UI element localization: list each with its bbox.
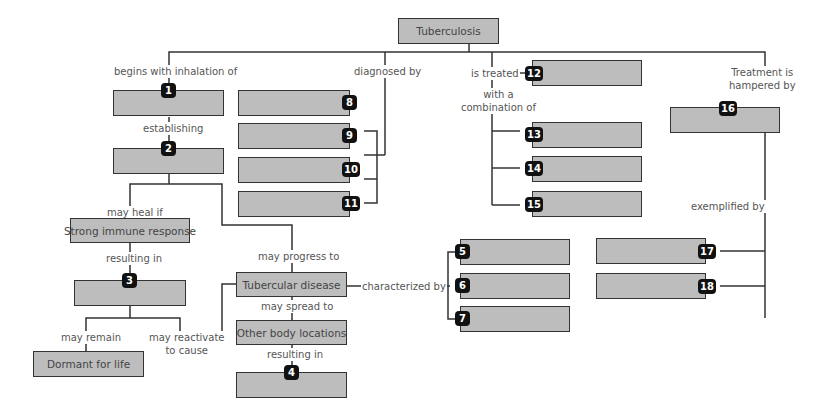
label-with-combination: with a combination of bbox=[460, 88, 537, 114]
answer-box-8[interactable] bbox=[238, 90, 350, 116]
answer-box-14[interactable] bbox=[532, 156, 642, 182]
answer-box-13[interactable] bbox=[532, 122, 642, 148]
label-establishing: establishing bbox=[142, 122, 204, 135]
label-is-treated: is treated bbox=[470, 67, 520, 80]
answer-box-7[interactable] bbox=[460, 306, 570, 332]
answer-box-9[interactable] bbox=[238, 123, 350, 149]
badge-4: 4 bbox=[284, 365, 299, 380]
badge-1: 1 bbox=[161, 83, 176, 98]
answer-box-17[interactable] bbox=[596, 238, 706, 264]
label-characterized-by: characterized by bbox=[361, 280, 447, 293]
badge-2: 2 bbox=[161, 141, 176, 156]
badge-7: 7 bbox=[455, 311, 470, 326]
badge-12: 12 bbox=[525, 66, 543, 81]
box-tubercular-disease: Tubercular disease bbox=[236, 272, 347, 297]
answer-box-12[interactable] bbox=[532, 60, 642, 86]
box-dormant-for-life: Dormant for life bbox=[33, 351, 144, 377]
box-strong-immune-response: Strong immune response bbox=[70, 218, 190, 243]
badge-16: 16 bbox=[719, 101, 737, 116]
label-begins-with: begins with inhalation of bbox=[113, 65, 238, 78]
answer-box-18[interactable] bbox=[596, 273, 706, 299]
label-exemplified-by: exemplified by bbox=[690, 200, 766, 213]
badge-13: 13 bbox=[525, 127, 543, 142]
badge-10: 10 bbox=[342, 162, 360, 177]
badge-3: 3 bbox=[122, 273, 137, 288]
label-diagnosed-by: diagnosed by bbox=[353, 65, 422, 78]
root-box-tuberculosis: Tuberculosis bbox=[398, 18, 499, 44]
answer-box-11[interactable] bbox=[238, 191, 350, 217]
label-may-reactivate: may reactivate to cause bbox=[148, 331, 225, 357]
badge-14: 14 bbox=[525, 161, 543, 176]
badge-17: 17 bbox=[698, 244, 716, 259]
badge-9: 9 bbox=[342, 128, 357, 143]
answer-box-5[interactable] bbox=[460, 239, 570, 265]
answer-box-6[interactable] bbox=[460, 273, 570, 299]
badge-6: 6 bbox=[455, 278, 470, 293]
badge-15: 15 bbox=[525, 197, 543, 212]
label-treatment-hampered: Treatment is hampered by bbox=[728, 66, 797, 92]
label-may-spread: may spread to bbox=[260, 300, 334, 313]
label-resulting-in-1: resulting in bbox=[105, 252, 163, 265]
answer-box-15[interactable] bbox=[532, 191, 642, 217]
badge-18: 18 bbox=[698, 279, 716, 294]
answer-box-10[interactable] bbox=[238, 157, 350, 183]
badge-5: 5 bbox=[455, 244, 470, 259]
badge-11: 11 bbox=[342, 196, 360, 211]
label-resulting-in-2: resulting in bbox=[266, 348, 324, 361]
box-other-body-locations: Other body locations bbox=[236, 320, 347, 345]
label-may-remain: may remain bbox=[60, 331, 122, 344]
label-may-progress: may progress to bbox=[257, 250, 340, 263]
badge-8: 8 bbox=[342, 95, 357, 110]
